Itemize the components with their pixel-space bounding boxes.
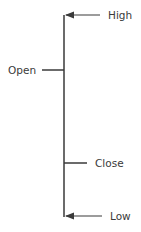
low-label: Low: [110, 210, 131, 222]
open-label: Open: [8, 64, 36, 76]
high-label: High: [108, 9, 132, 21]
close-label: Close: [95, 157, 124, 169]
ohlc-bar-diagram: [0, 0, 141, 232]
